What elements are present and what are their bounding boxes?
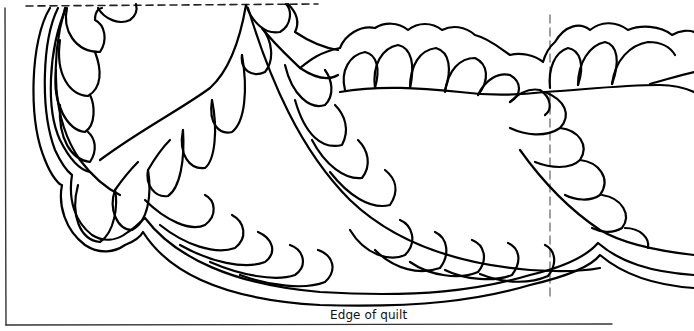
top-feather-small — [98, 4, 136, 22]
feather-cable-drawing — [0, 0, 694, 331]
center-feather-2 — [113, 140, 170, 230]
left-feather-1 — [66, 8, 105, 52]
upper-feather-1 — [344, 52, 378, 90]
upper-feather-2 — [374, 45, 412, 88]
bottom-feather-3 — [180, 232, 272, 265]
left-feather-2 — [59, 40, 100, 96]
center-feather-top — [246, 4, 290, 32]
right-mid-feather-4 — [592, 195, 626, 232]
top-dashed-guide — [26, 4, 318, 6]
left-border-line — [5, 8, 6, 325]
center-feather-echo — [288, 4, 338, 50]
center-feather-4 — [182, 100, 215, 168]
quilt-pattern-diagram: Edge of quilt — [0, 0, 694, 331]
upper-feather-3 — [410, 48, 449, 90]
desc-feather-2 — [285, 65, 331, 106]
center-rising-spine — [100, 5, 246, 160]
edge-of-quilt-label: Edge of quilt — [330, 308, 407, 322]
upper-feather-right-1 — [550, 48, 582, 88]
center-feather-5 — [211, 55, 245, 133]
upper-feather-right-4 — [650, 72, 694, 84]
descending-spine — [248, 8, 600, 271]
quilt-edge-line — [6, 324, 612, 325]
right-mid-feather-1 — [510, 92, 566, 134]
upper-feather-right-3 — [612, 42, 675, 84]
bottom-feather-1 — [145, 195, 214, 227]
upper-feather-right-2 — [578, 42, 617, 85]
